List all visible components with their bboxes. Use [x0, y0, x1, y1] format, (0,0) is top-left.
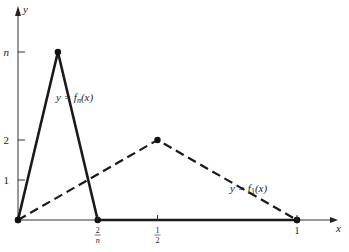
y-axis-label: y: [22, 3, 28, 15]
series-f1-line: [18, 140, 297, 220]
y-tick-label: 1: [4, 174, 10, 186]
f1-annotation-suffix: (x): [255, 182, 268, 195]
axes: [15, 6, 338, 223]
chart: 12n2n121 x y y = fn(x) y = f1(x): [0, 0, 349, 252]
x-axis-label: x: [335, 222, 341, 234]
x-tick-label: 1: [295, 225, 300, 236]
y-tick-label: n: [4, 46, 10, 58]
f1-annotation: y = f1(x): [229, 182, 267, 196]
series-f1-point: [154, 137, 160, 143]
f1-annotation-main: y = f: [229, 182, 253, 194]
fn-annotation-suffix: (x): [81, 91, 94, 104]
fn-annotation-main: y = f: [55, 91, 79, 103]
x-tick-label-numerator: 2: [96, 226, 100, 235]
x-tick-label-numerator: 1: [156, 226, 160, 235]
x-tick-label-denominator: n: [96, 236, 100, 245]
series-f1-point: [15, 217, 21, 223]
series-group: [15, 49, 300, 223]
y-axis-arrow-icon: [15, 6, 21, 16]
y-tick-label: 2: [4, 134, 10, 146]
x-tick-label-denominator: 2: [156, 236, 160, 245]
series-fn-point: [55, 49, 61, 55]
ticks-group: 12n2n121: [4, 46, 300, 245]
fn-annotation: y = fn(x): [55, 91, 93, 105]
